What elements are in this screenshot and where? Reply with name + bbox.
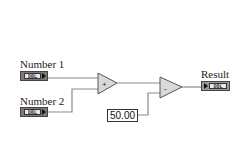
- result-indicator-terminal[interactable]: DBL: [201, 81, 230, 91]
- number1-control-terminal[interactable]: DBL: [20, 71, 48, 81]
- output-arrow-icon: [42, 73, 46, 79]
- add-symbol: +: [102, 80, 107, 89]
- subtract-symbol: -: [164, 84, 167, 93]
- wire-constant-to-subtract: [138, 93, 160, 115]
- number2-control-terminal[interactable]: DBL: [20, 107, 48, 117]
- result-label: Result: [201, 69, 229, 80]
- add-function-node[interactable]: +: [98, 73, 117, 94]
- numeric-constant[interactable]: 50.00: [107, 109, 138, 122]
- number2-label: Number 2: [20, 96, 64, 107]
- number1-label: Number 1: [20, 59, 64, 70]
- dbl-type-badge: DBL: [24, 73, 41, 79]
- dbl-type-badge: DBL: [24, 109, 41, 115]
- subtract-function-node[interactable]: -: [160, 77, 182, 98]
- dbl-type-badge: DBL: [209, 83, 227, 89]
- output-arrow-icon: [42, 109, 46, 115]
- input-arrow-icon: [204, 83, 208, 89]
